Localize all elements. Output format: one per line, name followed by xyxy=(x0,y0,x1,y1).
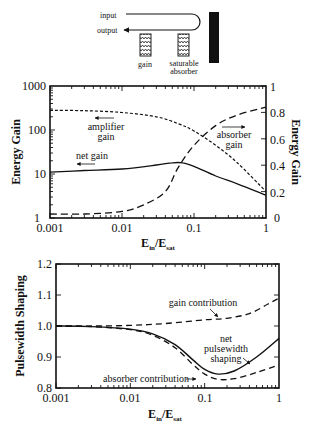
beam-path-arrow-icon xyxy=(124,14,200,30)
net-shaping-annotation-3: shaping xyxy=(210,353,241,364)
net-shaping-arrow-icon xyxy=(243,358,250,364)
x-axis-label: Ein/Esat xyxy=(141,236,175,252)
y-tick-1-0: 1.0 xyxy=(37,319,52,333)
y-right-tick-0-8: 0.8 xyxy=(270,106,285,120)
absorber-contribution-annotation: absorber contribution xyxy=(103,373,189,384)
pulsewidth-shaping-chart: 1.2 1.1 1.0 0.9 0.8 0.001 0.01 0.1 1 Pul… xyxy=(13,257,282,423)
gain-contribution-arrow-icon xyxy=(210,309,218,317)
x-tick-1: 1 xyxy=(263,221,269,235)
figure-canvas: input output gain saturable absorber 100… xyxy=(0,0,314,436)
gain-label: gain xyxy=(138,60,152,69)
gain-contribution-annotation: gain contribution xyxy=(169,297,238,308)
y-tick-1-1: 1.1 xyxy=(37,288,52,302)
output-label: output xyxy=(97,26,118,35)
y-right-tick-0: 0 xyxy=(274,211,280,225)
y-axis-label: Pulsewidth Shaping xyxy=(13,275,27,377)
x-tick-0-01: 0.01 xyxy=(120,391,141,405)
x-tick-1: 1 xyxy=(276,391,282,405)
mirror-block xyxy=(209,12,219,63)
y-tick-0-9: 0.9 xyxy=(37,350,52,364)
input-label: input xyxy=(100,11,117,20)
x-tick-0-1: 0.1 xyxy=(187,221,202,235)
y-tick-1000: 1000 xyxy=(22,79,46,93)
x-tick-0-001: 0.001 xyxy=(43,391,70,405)
x-axis-label: Ein/Esat xyxy=(148,407,182,423)
energy-gain-chart: 1000 100 10 1 1 0.8 0.6 0.4 0.2 0 0.001 … xyxy=(9,79,303,252)
x-tick-0-01: 0.01 xyxy=(112,221,133,235)
absorber-gain-annotation-2: gain xyxy=(225,139,242,150)
absorber-label-2: absorber xyxy=(170,67,198,76)
gain-medium-block xyxy=(140,34,151,56)
x-tick-0-001: 0.001 xyxy=(37,221,64,235)
net-gain-line xyxy=(50,162,266,195)
schematic: input output gain saturable absorber xyxy=(97,11,219,76)
amplifier-gain-annotation-2: gain xyxy=(97,131,114,142)
y-tick-100: 100 xyxy=(28,123,46,137)
y-axis-label: Energy Gain xyxy=(9,119,23,185)
y-tick-10: 10 xyxy=(34,167,46,181)
saturable-absorber-block xyxy=(178,34,189,56)
y-right-tick-1: 1 xyxy=(270,80,276,94)
net-gain-annotation: net gain xyxy=(76,150,108,161)
y-axis-label-right: Energy Gain xyxy=(289,119,303,185)
y-right-tick-0-4: 0.4 xyxy=(270,159,285,173)
y-right-tick-0-6: 0.6 xyxy=(270,133,285,147)
y-tick-1-2: 1.2 xyxy=(37,257,52,271)
y-right-tick-0-2: 0.2 xyxy=(270,186,285,200)
gain-contribution-line xyxy=(56,298,279,326)
x-tick-0-1: 0.1 xyxy=(198,391,213,405)
